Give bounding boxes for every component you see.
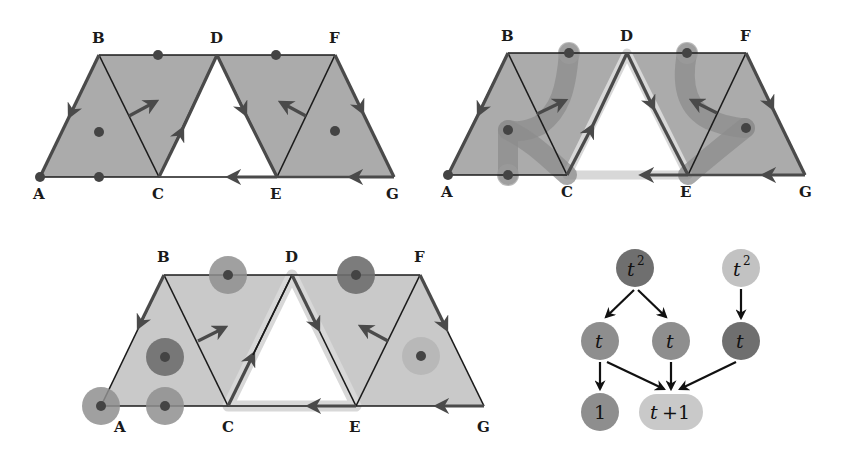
- vertex-label-d: D: [285, 248, 298, 266]
- vertex-label-b: B: [501, 27, 514, 45]
- vertex-label-b: B: [92, 29, 105, 47]
- svg-text:t: t: [627, 258, 635, 280]
- panel-top-left: B D F A C E G: [32, 29, 399, 203]
- node-t-center: t: [652, 322, 690, 360]
- vertex-label-g: G: [477, 418, 490, 436]
- vertex-label-a: A: [32, 185, 45, 203]
- vertex-label-d: D: [210, 29, 223, 47]
- vertex-label-a: A: [113, 418, 126, 436]
- vertex-label-f: F: [740, 27, 751, 45]
- panel-top-right: B D F A C E G: [440, 27, 812, 201]
- svg-text:t: t: [666, 330, 674, 352]
- poset-graph: t 2 t t t 2 t 1 t +1: [581, 249, 760, 431]
- vertex-label-e: E: [270, 185, 281, 203]
- vertex-label-e: E: [680, 183, 691, 201]
- svg-text:t: t: [595, 330, 603, 352]
- node-t2-right: t 2: [722, 249, 760, 287]
- figure-canvas: B D F A C E G: [0, 0, 847, 455]
- svg-text:2: 2: [743, 254, 751, 268]
- vertex-label-f: F: [329, 29, 340, 47]
- node-t2-left: t 2: [616, 249, 654, 287]
- svg-text:t: t: [736, 330, 744, 352]
- vertex-label-c: C: [152, 185, 164, 203]
- svg-text:+1: +1: [662, 401, 690, 423]
- panel-bottom: B D F A C E G: [82, 248, 490, 436]
- node-t-plus-one: t +1: [639, 394, 703, 430]
- node-one: 1: [581, 393, 619, 431]
- vertex-label-c: C: [222, 418, 234, 436]
- vertex-label-g: G: [386, 185, 399, 203]
- node-t-left: t: [581, 322, 619, 360]
- node-t-right: t: [722, 322, 760, 360]
- vertex-label-f: F: [414, 248, 425, 266]
- vertex-label-g: G: [799, 183, 812, 201]
- vertex-label-a: A: [440, 183, 453, 201]
- svg-text:t: t: [733, 258, 741, 280]
- vertex-label-b: B: [157, 248, 170, 266]
- svg-text:2: 2: [637, 254, 645, 268]
- svg-text:t: t: [650, 401, 658, 423]
- svg-text:1: 1: [594, 401, 606, 423]
- vertex-label-d: D: [620, 27, 633, 45]
- vertex-label-e: E: [349, 418, 360, 436]
- vertex-label-c: C: [561, 183, 573, 201]
